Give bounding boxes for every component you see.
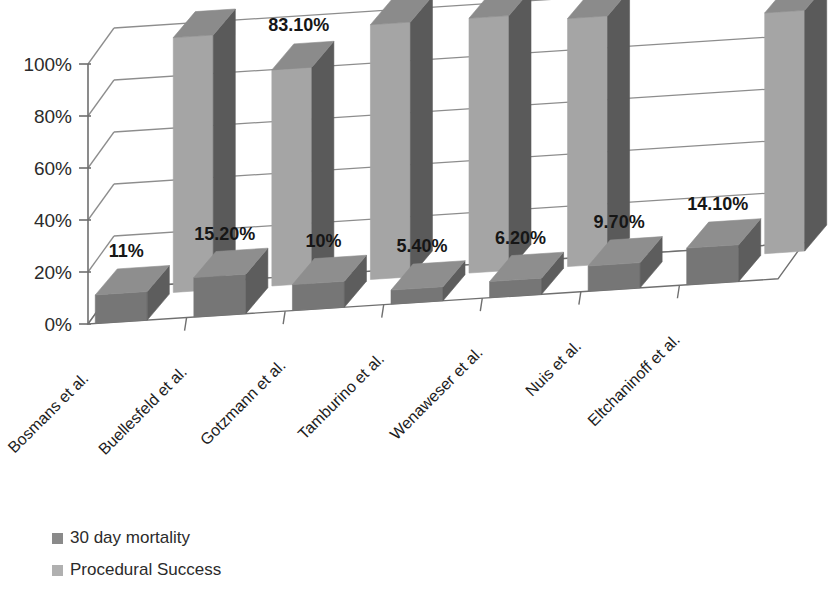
chart-container: 0%20%40%60%80%100% 98%11%83.10%15.20%98%… [0, 0, 832, 596]
y-axis-tick-label: 60% [34, 158, 72, 179]
bar-chart-3d: 0%20%40%60%80%100% 98%11%83.10%15.20%98%… [0, 0, 832, 596]
y-axis-tick-labels: 0%20%40%60%80%100% [23, 54, 72, 335]
data-label-30-day-mortality: 15.20% [194, 224, 255, 244]
bar-procedural-success [173, 9, 235, 292]
legend-item[interactable]: Procedural Success [52, 560, 221, 579]
category-label: Buellesfeld et al. [95, 363, 190, 458]
y-axis-tick-label: 0% [45, 314, 73, 335]
y-axis-tick-label: 20% [34, 262, 72, 283]
data-label-30-day-mortality: 5.40% [396, 236, 447, 256]
legend-item[interactable]: 30 day mortality [52, 528, 190, 547]
category-label: Bosmans et al. [5, 369, 92, 456]
legend-swatch [52, 565, 63, 576]
category-label: Eltchaninoff et al. [584, 331, 683, 430]
y-axis-tick-label: 80% [34, 106, 72, 127]
category-label: Gotzmann et al. [197, 356, 289, 448]
data-label-30-day-mortality: 14.10% [687, 194, 748, 214]
data-label-30-day-mortality: 6.20% [495, 228, 546, 248]
data-label-procedural-success: 98% [182, 0, 218, 3]
category-label: Wenaweser et al. [387, 344, 486, 443]
y-axis-tick-label: 40% [34, 210, 72, 231]
data-label-30-day-mortality: 10% [305, 231, 341, 251]
chart-legend: 30 day mortalityProcedural Success [52, 528, 221, 579]
legend-label: 30 day mortality [70, 528, 190, 547]
category-labels: Bosmans et al.Buellesfeld et al.Gotzmann… [5, 331, 683, 458]
bar-procedural-success [765, 0, 827, 254]
legend-swatch [52, 533, 63, 544]
category-label: Nuis et al. [522, 337, 584, 399]
category-label: Tamburino et al. [295, 350, 388, 443]
data-label-30-day-mortality: 11% [109, 241, 144, 261]
data-label-procedural-success: 83.10% [268, 15, 329, 35]
legend-label: Procedural Success [70, 560, 221, 579]
data-label-30-day-mortality: 9.70% [594, 212, 645, 232]
y-axis-tick-label: 100% [23, 54, 72, 75]
value-axis [79, 64, 91, 324]
